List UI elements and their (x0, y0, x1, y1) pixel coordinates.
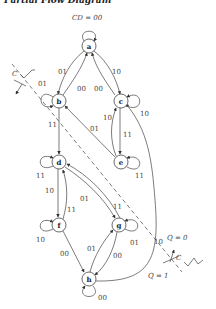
loop-g (125, 220, 138, 231)
label-hg: 01 (87, 245, 96, 253)
edge-e-c (112, 108, 117, 156)
svg-text:e: e (119, 158, 124, 167)
label-cc: 10 (140, 110, 149, 118)
loop-c (127, 95, 140, 107)
node-d: d (52, 155, 66, 169)
loop-f (40, 220, 53, 231)
loop-h (83, 286, 96, 297)
label-fd: 11 (67, 206, 76, 214)
q1-label: Q = 1 (148, 272, 169, 280)
node-a: a (82, 39, 96, 53)
clock-label-bottom: C (176, 254, 182, 262)
node-e: e (114, 155, 128, 169)
svg-text:c: c (119, 97, 123, 106)
label-gg: 01 (130, 239, 139, 247)
label-ac: 10 (112, 68, 121, 76)
label-fh: 00 (60, 250, 69, 258)
label-ca: 00 (94, 85, 103, 93)
node-h: h (82, 272, 96, 286)
loop-b (41, 94, 53, 107)
label-gd: 11 (113, 203, 122, 211)
label-bd: 11 (48, 121, 57, 129)
label-gh: 00 (113, 252, 122, 260)
label-ce: 11 (123, 131, 132, 139)
svg-text:h: h (86, 275, 91, 284)
label-ff: 10 (36, 236, 45, 244)
label-dd: 11 (36, 172, 45, 180)
label-ba: 00 (77, 85, 86, 93)
clock-waveform-bottom (184, 258, 203, 266)
svg-text:a: a (87, 42, 92, 51)
label-eb: 01 (90, 125, 99, 133)
label-dg: 01 (80, 195, 89, 203)
label-hh: 00 (98, 294, 107, 302)
node-g: g (112, 218, 126, 232)
loop-e (127, 157, 140, 169)
svg-text:b: b (57, 97, 62, 106)
node-c: c (114, 94, 128, 108)
svg-text:g: g (117, 221, 122, 230)
svg-text:d: d (57, 158, 62, 167)
state-diagram: CD = 00 01 10 01 00 10 00 11 01 11 10 11… (0, 0, 216, 309)
header-cd-label: CD = 00 (72, 14, 103, 22)
label-ec: 10 (103, 114, 112, 122)
q0-label: Q = 0 (167, 234, 188, 242)
label-bb: 01 (38, 80, 47, 88)
node-b: b (52, 94, 66, 108)
label-ab: 01 (58, 68, 67, 76)
clock-tick-top (14, 80, 26, 86)
node-f: f (52, 218, 66, 232)
label-ee: 11 (135, 172, 144, 180)
clock-arrow-top (16, 84, 22, 94)
label-df: 10 (45, 187, 54, 195)
loop-d (40, 156, 53, 167)
clock-label-top: C (12, 70, 18, 78)
